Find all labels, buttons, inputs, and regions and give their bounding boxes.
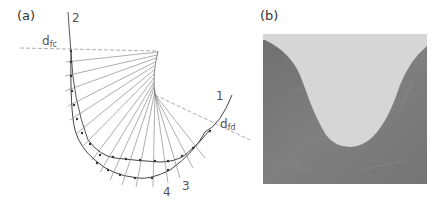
dfc-dashed-line <box>20 48 158 51</box>
dfd-dashed-line <box>155 95 250 140</box>
label-3: 3 <box>182 179 190 193</box>
micrograph <box>250 0 445 203</box>
panel-a-diagram: (a) <box>0 0 250 203</box>
panel-a-label: (a) <box>17 8 35 23</box>
label-4: 4 <box>163 185 171 199</box>
tooth-profile-diagram: 2 1 3 4 dfc dfd <box>0 0 250 203</box>
dfd-label: dfd <box>220 117 236 132</box>
label-2: 2 <box>72 11 80 25</box>
outer-profile-curve <box>71 52 232 178</box>
dfc-label: dfc <box>42 34 57 49</box>
panel-b-photo: (b) <box>250 0 445 203</box>
fan-lines <box>65 52 205 187</box>
origin-curve <box>154 51 158 95</box>
inner-profile-curve <box>88 130 210 162</box>
label-1: 1 <box>216 89 224 103</box>
